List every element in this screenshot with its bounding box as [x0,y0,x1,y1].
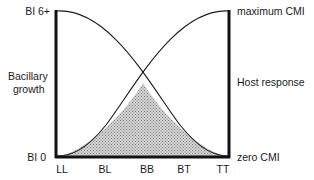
right-top-label: maximum CMI [237,5,305,17]
left-top-label: BI 6+ [0,5,50,17]
x-tick-ll: LL [47,163,77,175]
x-tick-bt: BT [169,163,199,175]
left-bottom-label: BI 0 [0,151,46,163]
x-tick-bb: BB [132,163,162,175]
x-tick-bl: BL [90,163,120,175]
overlap-shaded-area [57,83,229,156]
left-axis-title-line1: Bacillary [8,70,48,82]
left-axis-title-line2: growth [13,83,45,95]
right-bottom-label: zero CMI [237,151,280,163]
right-axis-title: Host response [237,76,305,88]
x-tick-tt: TT [208,163,238,175]
